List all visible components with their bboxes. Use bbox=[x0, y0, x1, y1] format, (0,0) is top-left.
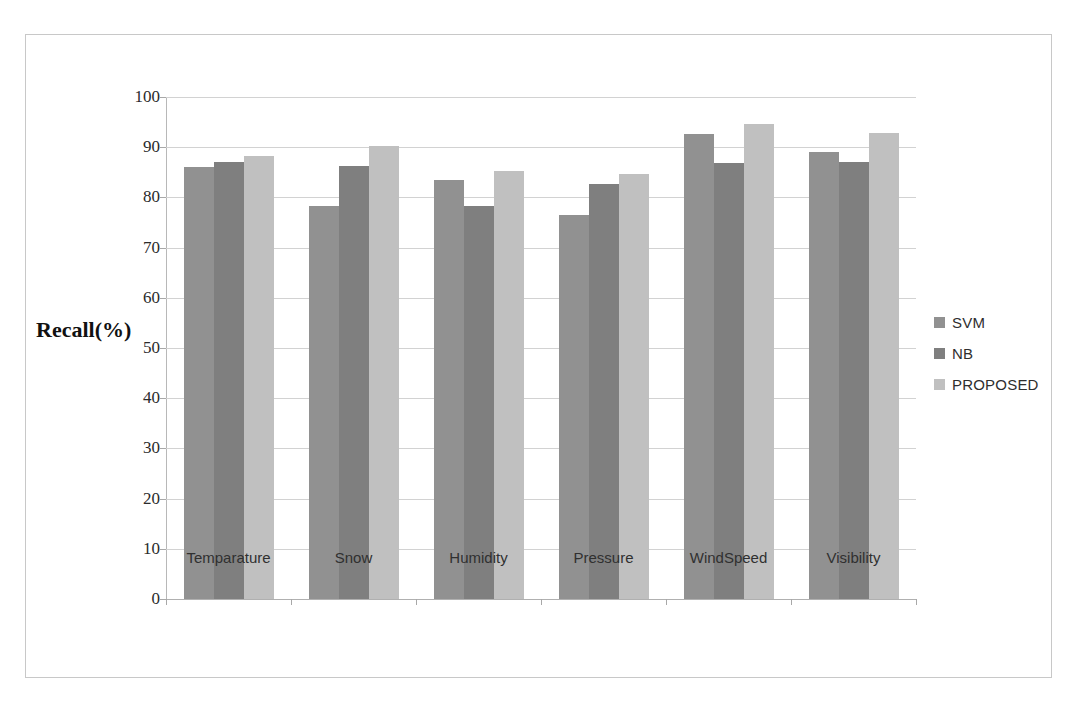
gridline-50 bbox=[166, 348, 916, 349]
plot-area bbox=[166, 97, 916, 599]
chart-figure: Recall(%) 0102030405060708090100 Tempara… bbox=[25, 34, 1052, 678]
x-tick-label-humidity: Humidity bbox=[449, 549, 507, 566]
gridline-20 bbox=[166, 499, 916, 500]
gridline-70 bbox=[166, 248, 916, 249]
bar-group bbox=[809, 97, 899, 599]
bar-group bbox=[184, 97, 274, 599]
bar bbox=[714, 163, 744, 599]
bar bbox=[369, 146, 399, 599]
bar bbox=[464, 206, 494, 599]
y-tick-label-70: 70 bbox=[116, 238, 160, 258]
y-tick-label-20: 20 bbox=[116, 489, 160, 509]
bar-group bbox=[684, 97, 774, 599]
bar bbox=[559, 215, 589, 599]
bar bbox=[434, 180, 464, 599]
gridline-60 bbox=[166, 298, 916, 299]
x-tick-mark bbox=[291, 599, 292, 605]
x-tick-label-windspeed: WindSpeed bbox=[690, 549, 768, 566]
legend-swatch-icon bbox=[934, 379, 945, 390]
x-tick-label-temparature: Temparature bbox=[186, 549, 270, 566]
bar bbox=[184, 167, 214, 599]
x-tick-mark bbox=[541, 599, 542, 605]
bar bbox=[744, 124, 774, 599]
y-tick-label-40: 40 bbox=[116, 388, 160, 408]
bar bbox=[214, 162, 244, 599]
bar bbox=[869, 133, 899, 599]
legend-swatch-icon bbox=[934, 317, 945, 328]
gridline-30 bbox=[166, 448, 916, 449]
x-tick-label-pressure: Pressure bbox=[573, 549, 633, 566]
y-tick-label-60: 60 bbox=[116, 288, 160, 308]
bar-group bbox=[309, 97, 399, 599]
x-tick-label-visibility: Visibility bbox=[827, 549, 881, 566]
legend-swatch-icon bbox=[934, 348, 945, 359]
chart-legend: SVMNBPROPOSED bbox=[934, 307, 1049, 400]
legend-label: NB bbox=[952, 345, 973, 362]
y-tick-label-50: 50 bbox=[116, 338, 160, 358]
bar bbox=[619, 174, 649, 599]
legend-label: SVM bbox=[952, 314, 985, 331]
bar bbox=[309, 206, 339, 599]
bar-group bbox=[559, 97, 649, 599]
bar bbox=[684, 134, 714, 599]
y-tick-label-10: 10 bbox=[116, 539, 160, 559]
gridline-80 bbox=[166, 197, 916, 198]
legend-item-nb[interactable]: NB bbox=[934, 338, 1049, 369]
x-tick-mark bbox=[416, 599, 417, 605]
y-tick-label-80: 80 bbox=[116, 187, 160, 207]
y-tick-label-100: 100 bbox=[116, 87, 160, 107]
legend-label: PROPOSED bbox=[952, 376, 1039, 393]
y-tick-label-30: 30 bbox=[116, 438, 160, 458]
bar bbox=[809, 152, 839, 599]
x-tick-mark bbox=[791, 599, 792, 605]
legend-item-svm[interactable]: SVM bbox=[934, 307, 1049, 338]
y-tick-label-90: 90 bbox=[116, 137, 160, 157]
bar bbox=[494, 171, 524, 599]
x-tick-mark bbox=[166, 599, 167, 605]
gridline-90 bbox=[166, 147, 916, 148]
y-tick-label-0: 0 bbox=[116, 589, 160, 609]
bar bbox=[589, 184, 619, 599]
bar bbox=[839, 162, 869, 599]
bar bbox=[339, 166, 369, 599]
x-tick-mark bbox=[916, 599, 917, 605]
bar bbox=[244, 156, 274, 599]
y-axis-tick-labels: 0102030405060708090100 bbox=[104, 97, 160, 599]
x-tick-label-snow: Snow bbox=[335, 549, 373, 566]
bar-group bbox=[434, 97, 524, 599]
gridline-10 bbox=[166, 549, 916, 550]
x-tick-mark bbox=[666, 599, 667, 605]
gridline-100 bbox=[166, 97, 916, 98]
legend-item-proposed[interactable]: PROPOSED bbox=[934, 369, 1049, 400]
gridline-40 bbox=[166, 398, 916, 399]
